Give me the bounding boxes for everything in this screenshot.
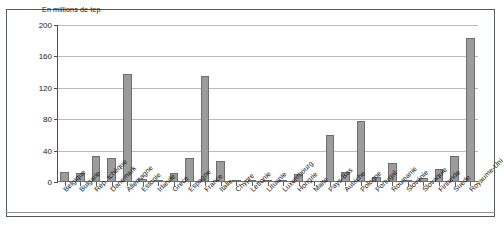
x-axis-tick-mark (408, 182, 409, 186)
y-axis-tick-label: 200 (39, 21, 52, 30)
gridline (57, 56, 478, 57)
y-axis-tick-label: 0 (48, 178, 52, 187)
bar (216, 161, 225, 182)
axis-unit-note: En millions de tep (42, 5, 101, 14)
y-axis-tick-mark (54, 119, 58, 120)
bar (466, 38, 475, 182)
x-axis-tick-mark (439, 182, 440, 186)
y-axis-tick-mark (54, 25, 58, 26)
y-axis-tick-label: 80 (43, 115, 52, 124)
bar (326, 135, 335, 182)
y-axis-tick-labels: 04080120160200 (22, 25, 52, 182)
bar (185, 158, 194, 182)
gridline (57, 25, 478, 26)
x-axis-tick-mark (252, 182, 253, 186)
bar (450, 156, 459, 182)
x-axis-tick-mark (314, 182, 315, 186)
bar (341, 172, 350, 182)
x-axis-tick-mark (190, 182, 191, 186)
x-axis-tick-mark (423, 182, 424, 186)
x-axis-tick-mark (96, 182, 97, 186)
x-axis-tick-mark (299, 182, 300, 186)
x-axis-tick-mark (268, 182, 269, 186)
y-axis-tick-mark (54, 182, 58, 183)
x-axis-tick-mark (205, 182, 206, 186)
bar (170, 173, 179, 182)
y-axis-tick-label: 40 (43, 146, 52, 155)
x-axis-tick-mark (65, 182, 66, 186)
gridline (57, 151, 478, 152)
gridline (57, 88, 478, 89)
bar (107, 158, 116, 182)
x-axis-tick-mark (80, 182, 81, 186)
bar (357, 121, 366, 182)
gridline (57, 119, 478, 120)
x-axis-tick-mark (392, 182, 393, 186)
y-axis-tick-label: 160 (39, 52, 52, 61)
bottom-divider (6, 212, 495, 213)
x-axis-tick-mark (470, 182, 471, 186)
x-axis-tick-mark (127, 182, 128, 186)
x-axis-tick-mark (330, 182, 331, 186)
bar (92, 156, 101, 182)
bar (60, 172, 69, 182)
y-axis-tick-mark (54, 88, 58, 89)
bar (294, 174, 303, 182)
bar (201, 76, 210, 182)
y-axis-tick-mark (54, 151, 58, 152)
x-axis-tick-mark (221, 182, 222, 186)
x-axis-tick-mark (345, 182, 346, 186)
x-axis-tick-mark (112, 182, 113, 186)
bar (76, 173, 85, 182)
plot-area (57, 25, 478, 182)
bar (388, 163, 397, 182)
x-axis-tick-mark (455, 182, 456, 186)
x-axis-tick-mark (377, 182, 378, 186)
x-axis-tick-mark (143, 182, 144, 186)
bar (123, 74, 132, 182)
bar (435, 169, 444, 182)
x-axis-tick-mark (361, 182, 362, 186)
y-axis-tick-label: 120 (39, 83, 52, 92)
y-axis-tick-mark (54, 56, 58, 57)
x-axis-tick-mark (174, 182, 175, 186)
x-axis-tick-mark (283, 182, 284, 186)
x-axis-tick-mark (236, 182, 237, 186)
x-axis-tick-mark (158, 182, 159, 186)
